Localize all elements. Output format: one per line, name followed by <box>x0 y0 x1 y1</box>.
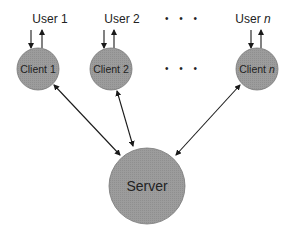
user-2-label: User 2 <box>104 12 140 26</box>
client-server-arrows <box>54 85 240 155</box>
users-ellipsis: • • • <box>165 13 201 24</box>
svg-text:Client 1: Client 1 <box>20 63 56 75</box>
client-2-node: Client 2 <box>90 48 132 90</box>
user-1-label: User 1 <box>32 12 68 26</box>
client-1-server-arrow <box>54 85 120 155</box>
svg-text:Server: Server <box>126 178 168 194</box>
diagram-svg: User 1 User 2 User n • • • • • • Client … <box>0 0 289 227</box>
user-client-arrows <box>31 30 261 48</box>
client-n-server-arrow <box>176 85 240 155</box>
client-server-diagram: User 1 User 2 User n • • • • • • Client … <box>0 0 289 227</box>
clients-ellipsis: • • • <box>165 63 201 74</box>
client-1-node: Client 1 <box>17 48 59 90</box>
client-n-node: Client n <box>236 48 278 90</box>
user-n-label: User n <box>235 12 271 26</box>
server-node: Server <box>109 148 185 224</box>
svg-text:Client 2: Client 2 <box>93 63 129 75</box>
client-2-server-arrow <box>117 91 133 146</box>
svg-text:Client n: Client n <box>239 63 275 75</box>
